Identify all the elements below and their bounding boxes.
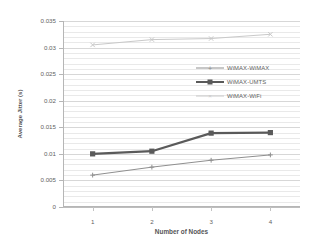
x-tick-label: 2 [150, 219, 153, 225]
series-line-wimax-wifi [93, 34, 271, 45]
plot-area [63, 21, 300, 207]
square-marker-icon [196, 78, 224, 87]
y-tick-label: 0.005 [41, 177, 56, 183]
y-tick-label: 0.01 [44, 151, 56, 157]
legend-item-wimax-wimax[interactable]: +WiMAX-WiMAX [196, 61, 302, 75]
legend-label: WiMAX-WiMAX [227, 65, 269, 72]
plus-marker-icon: + [196, 64, 224, 73]
y-tick-label: 0.015 [41, 124, 56, 130]
data-point-square [90, 151, 95, 156]
legend-label: WiMAX-WiFi [227, 93, 261, 100]
x-tick-label: 4 [269, 219, 272, 225]
x-tick-label: 3 [209, 219, 212, 225]
series-layer [63, 21, 300, 207]
y-tick-label: 0.02 [44, 98, 56, 104]
figure-caption [6, 243, 176, 251]
data-point-square [149, 149, 154, 154]
data-point-plus [90, 173, 95, 178]
x-axis-title: Number of Nodes [63, 228, 300, 235]
x-marker-icon: × [196, 92, 224, 101]
x-tick-label: 1 [91, 219, 94, 225]
chart-legend: +WiMAX-WiMAXWiMAX-UMTS×WiMAX-WiFi [196, 61, 302, 103]
series-line-wimax-wimax [93, 155, 271, 175]
legend-item-wimax-wifi[interactable]: ×WiMAX-WiFi [196, 89, 302, 103]
y-tick-label: 0.035 [41, 18, 56, 24]
legend-item-wimax-umts[interactable]: WiMAX-UMTS [196, 75, 302, 89]
y-tick-label: 0.025 [41, 71, 56, 77]
legend-label: WiMAX-UMTS [227, 79, 266, 86]
y-axis-tick-labels: 00.0050.010.0150.020.0250.030.035 [0, 21, 60, 207]
y-tick-label: 0.03 [44, 44, 56, 50]
data-point-square [268, 130, 273, 135]
x-axis-tick-labels: 1234 [63, 207, 300, 227]
data-point-square [209, 131, 214, 136]
y-tick-label: 0 [53, 204, 56, 210]
data-point-plus [149, 165, 154, 170]
series-line-wimax-umts [93, 133, 271, 154]
chart-figure: Average Jitter (s) 00.0050.010.0150.020.… [0, 0, 312, 251]
data-point-plus [268, 153, 273, 158]
data-point-plus [209, 158, 214, 163]
